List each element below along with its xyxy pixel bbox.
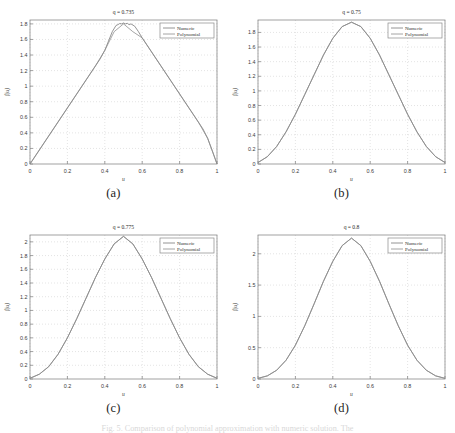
subplot-c: 00.20.40.60.8100.20.40.60.811.21.41.61.8…	[0, 215, 227, 430]
chart-svg: 00.20.40.60.8100.20.40.60.811.21.41.61.8…	[0, 0, 227, 192]
y-tick-label: 1.2	[20, 294, 28, 300]
x-axis-label: u	[122, 176, 125, 182]
x-tick-label: 0	[257, 383, 260, 389]
y-tick-label: 1.6	[248, 44, 256, 50]
x-tick-label: 0.6	[366, 168, 374, 174]
subplot-label-b: (b)	[228, 186, 455, 201]
y-tick-label: 0	[253, 161, 256, 167]
y-tick-label: 1.4	[20, 52, 28, 58]
plot-area-d: 00.20.40.60.8100.511.52uf(u)q = 0.8Numer…	[228, 215, 455, 407]
x-tick-label: 0	[257, 168, 260, 174]
legend-label: Numeric	[405, 26, 423, 31]
legend-label: Polynomial	[177, 247, 201, 252]
chart-title: q = 0.735	[113, 9, 135, 15]
chart-legend: NumericPolynomial	[160, 23, 214, 38]
subplot-label-d: (d)	[228, 401, 455, 416]
y-axis-label: f(u)	[232, 303, 239, 311]
y-tick-label: 1.5	[248, 282, 256, 288]
y-axis-label: f(u)	[4, 88, 11, 96]
chart-legend: NumericPolynomial	[160, 238, 214, 253]
plot-area-b: 00.20.40.60.8100.20.40.60.811.21.41.61.8…	[228, 0, 455, 192]
chart-svg: 00.20.40.60.8100.20.40.60.811.21.41.61.8…	[228, 0, 455, 192]
x-tick-label: 0.4	[101, 168, 109, 174]
y-tick-label: 0	[25, 376, 28, 382]
y-tick-label: 1.4	[248, 59, 256, 65]
figure-caption: Fig. 5. Comparison of polynomial approxi…	[0, 424, 455, 433]
x-tick-label: 1	[216, 168, 219, 174]
plot-area-a: 00.20.40.60.8100.20.40.60.811.21.41.61.8…	[0, 0, 227, 192]
x-tick-label: 1	[216, 383, 219, 389]
plot-area-c: 00.20.40.60.8100.20.40.60.811.21.41.61.8…	[0, 215, 227, 407]
x-tick-label: 0.4	[101, 383, 109, 389]
x-tick-label: 0.2	[64, 383, 72, 389]
y-tick-label: 1	[25, 83, 28, 89]
x-tick-label: 0.6	[138, 383, 146, 389]
legend-label: Polynomial	[405, 247, 429, 252]
y-tick-label: 1.6	[20, 36, 28, 42]
y-axis-label: f(u)	[232, 88, 239, 96]
legend-label: Numeric	[177, 241, 195, 246]
x-axis-label: u	[350, 391, 353, 397]
y-tick-label: 0.8	[248, 103, 256, 109]
x-tick-label: 0.6	[366, 383, 374, 389]
y-tick-label: 0	[25, 161, 28, 167]
x-tick-label: 0.2	[292, 383, 300, 389]
x-tick-label: 0.8	[176, 168, 184, 174]
x-axis-label: u	[350, 176, 353, 182]
y-tick-label: 1	[25, 307, 28, 313]
y-tick-label: 1	[253, 313, 256, 319]
subplot-label-c: (c)	[0, 401, 227, 416]
x-tick-label: 0.4	[329, 168, 337, 174]
y-tick-label: 1.4	[20, 280, 28, 286]
chart-svg: 00.20.40.60.8100.511.52uf(u)q = 0.8Numer…	[228, 215, 455, 407]
y-axis-label: f(u)	[4, 303, 11, 311]
y-tick-label: 1.6	[20, 266, 28, 272]
x-tick-label: 0	[29, 383, 32, 389]
x-tick-label: 0.2	[64, 168, 72, 174]
y-tick-label: 0.4	[20, 130, 28, 136]
y-tick-label: 0.4	[20, 349, 28, 355]
x-tick-label: 0.4	[329, 383, 337, 389]
y-tick-label: 0.6	[20, 335, 28, 341]
legend-label: Numeric	[405, 241, 423, 246]
y-tick-label: 0	[253, 376, 256, 382]
x-tick-label: 0.6	[138, 168, 146, 174]
x-tick-label: 0	[29, 168, 32, 174]
legend-label: Polynomial	[177, 32, 201, 37]
y-tick-label: 1.8	[20, 253, 28, 259]
chart-legend: NumericPolynomial	[388, 238, 442, 253]
x-axis-label: u	[122, 391, 125, 397]
chart-title: q = 0.775	[113, 224, 135, 230]
y-tick-label: 1.8	[248, 29, 256, 35]
chart-legend: NumericPolynomial	[388, 23, 442, 38]
y-tick-label: 2	[253, 251, 256, 257]
x-tick-label: 1	[444, 383, 447, 389]
y-tick-label: 0.5	[248, 345, 256, 351]
figure-panel-grid: 00.20.40.60.8100.20.40.60.811.21.41.61.8…	[0, 0, 455, 433]
x-tick-label: 0.2	[292, 168, 300, 174]
y-tick-label: 0.2	[248, 146, 256, 152]
y-tick-label: 1.2	[248, 73, 256, 79]
y-tick-label: 0.4	[248, 132, 256, 138]
subplot-a: 00.20.40.60.8100.20.40.60.811.21.41.61.8…	[0, 0, 227, 215]
y-tick-label: 0.8	[20, 99, 28, 105]
legend-label: Numeric	[177, 26, 195, 31]
y-tick-label: 0.8	[20, 321, 28, 327]
y-tick-label: 0.6	[20, 114, 28, 120]
y-tick-label: 0.2	[20, 145, 28, 151]
chart-svg: 00.20.40.60.8100.20.40.60.811.21.41.61.8…	[0, 215, 227, 407]
chart-title: q = 0.8	[344, 224, 360, 230]
legend-label: Polynomial	[405, 32, 429, 37]
y-tick-label: 2	[25, 239, 28, 245]
x-tick-label: 0.8	[404, 168, 412, 174]
x-tick-label: 0.8	[176, 383, 184, 389]
chart-title: q = 0.75	[342, 9, 361, 15]
y-tick-label: 1	[253, 88, 256, 94]
y-tick-label: 0.2	[20, 362, 28, 368]
y-tick-label: 0.6	[248, 117, 256, 123]
x-tick-label: 0.8	[404, 383, 412, 389]
subplot-d: 00.20.40.60.8100.511.52uf(u)q = 0.8Numer…	[228, 215, 455, 430]
subplot-label-a: (a)	[0, 186, 227, 201]
y-tick-label: 1.2	[20, 68, 28, 74]
y-tick-label: 1.8	[20, 21, 28, 27]
